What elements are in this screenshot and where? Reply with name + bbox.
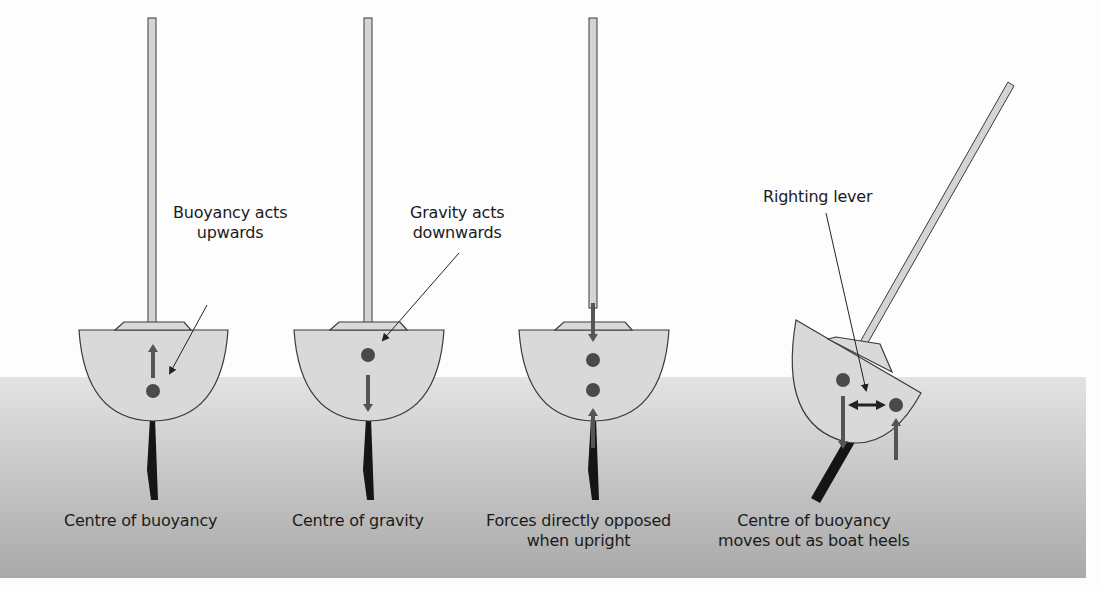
annotation-buoyancy: Buoyancy acts upwards	[173, 203, 287, 243]
caption-heeled-buoyancy: Centre of buoyancy moves out as boat hee…	[718, 511, 910, 551]
centre-dot	[146, 384, 160, 398]
boat-heeled	[792, 82, 1014, 503]
keel	[147, 418, 158, 500]
caption-centre-of-buoyancy: Centre of buoyancy	[64, 511, 217, 531]
caption-forces-opposed: Forces directly opposed when upright	[486, 511, 671, 551]
deck-cabin	[115, 322, 191, 330]
centre-dot-gravity	[586, 353, 600, 367]
keel	[363, 418, 374, 500]
hull	[792, 320, 921, 443]
boats-illustration	[0, 0, 1099, 590]
annotation-righting-lever: Righting lever	[763, 187, 872, 207]
annotation-gravity: Gravity acts downwards	[410, 203, 504, 243]
hull	[519, 330, 669, 421]
boat-gravity	[294, 18, 459, 500]
mast	[148, 18, 156, 323]
boat-buoyancy	[79, 18, 228, 500]
mast	[589, 18, 597, 308]
leader-line	[383, 253, 459, 340]
centre-dot	[361, 348, 375, 362]
centre-dot-gravity	[836, 373, 850, 387]
centre-dot-buoyancy	[586, 383, 600, 397]
mast	[860, 82, 1014, 346]
boat-opposed	[519, 18, 669, 500]
stability-diagram: Buoyancy acts upwards Gravity acts downw…	[0, 0, 1099, 590]
centre-dot-buoyancy	[889, 398, 903, 412]
caption-centre-of-gravity: Centre of gravity	[292, 511, 424, 531]
mast	[364, 18, 372, 323]
